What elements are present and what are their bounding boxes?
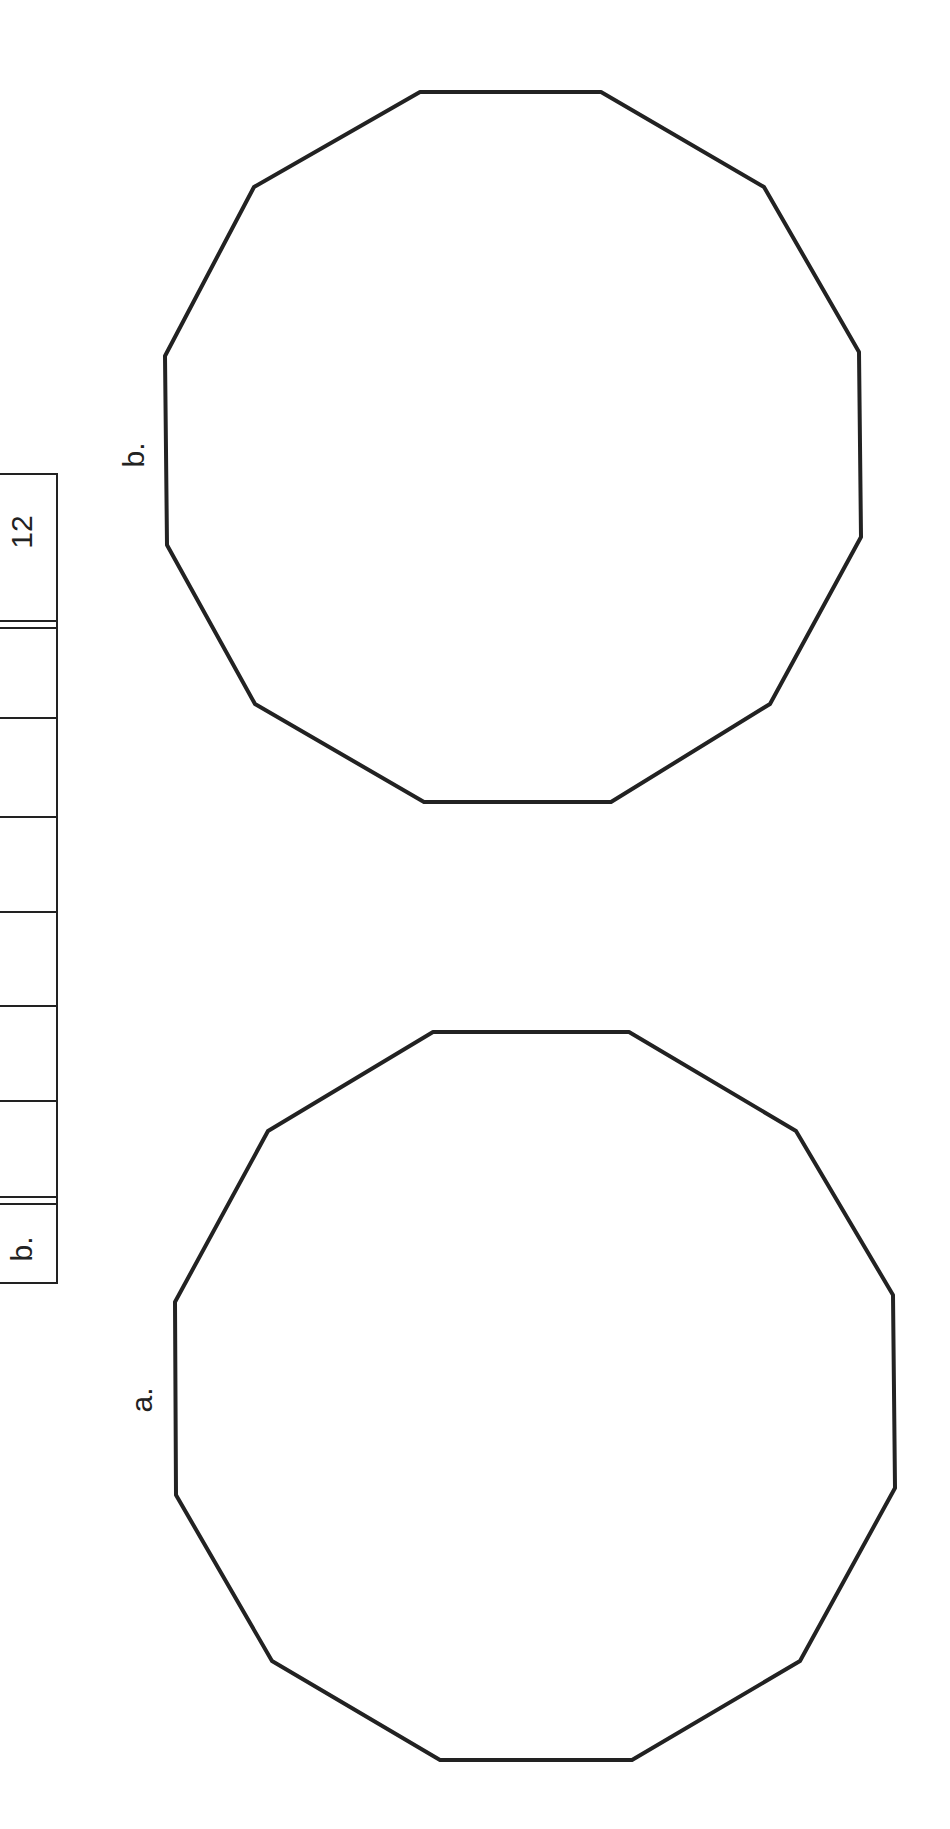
worksheet-page: 12 b. b. a. xyxy=(0,0,950,1829)
decagon-b xyxy=(165,92,861,802)
figures-canvas xyxy=(0,0,950,1829)
decagon-a xyxy=(175,1032,895,1760)
